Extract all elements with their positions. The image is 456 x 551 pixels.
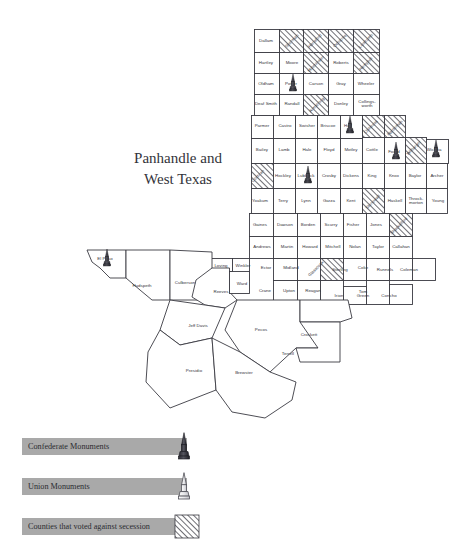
county-label-runnels: Runnels <box>377 267 394 272</box>
county-label-moore: Moore <box>286 60 299 65</box>
county-label-castro: Castro <box>278 123 292 128</box>
county-label-kent: Kent <box>346 198 356 203</box>
county-label-king: King <box>368 173 377 178</box>
county-label-callahan: Callahan <box>392 244 410 249</box>
county-label-bailey: Bailey <box>256 147 269 152</box>
texas-county-map: DallamShermanHansfordOchiltreeLipscombHa… <box>0 0 456 551</box>
county-label-upton: Upton <box>283 288 295 293</box>
county-label-yoakum: Yoakum <box>252 198 268 203</box>
county-label-scurry: Scurry <box>325 222 339 227</box>
county-label-crane: Crane <box>259 288 272 293</box>
county-label-culberson: Culberson <box>175 280 196 285</box>
county-label-taylor: Taylor <box>372 244 384 249</box>
county-label-hudspeth: Hudspeth <box>132 283 152 288</box>
county-label-andrews: Andrews <box>253 244 271 249</box>
county-label-roberts: Roberts <box>333 60 349 65</box>
county-label-ward: Ward <box>237 281 248 286</box>
county-label-concho: Concho <box>381 293 397 298</box>
county-label-hockley: Hockley <box>275 173 292 178</box>
county-label-throckmorton: Throck-morton <box>408 196 424 206</box>
map-legend: Confederate MonumentsUnion MonumentsCoun… <box>22 433 199 538</box>
county-label-parmer: Parmer <box>255 123 270 128</box>
county-label-hartley: Hartley <box>259 60 274 65</box>
county-label-howard: Howard <box>302 244 318 249</box>
county-label-garza: Garza <box>323 198 336 203</box>
legend-label: Union Monuments <box>28 482 90 491</box>
county-label-jones: Jones <box>370 222 383 227</box>
county-label-sterling: Sterling <box>332 267 348 272</box>
map-title-line1: Panhandle and <box>134 150 222 166</box>
county-label-carson: Carson <box>309 81 324 86</box>
county-label-gray: Gray <box>336 81 346 86</box>
county-label-wheeler: Wheeler <box>358 81 375 86</box>
county-label-archer: Archer <box>430 173 444 178</box>
county-label-haskell: Haskell <box>388 198 403 203</box>
county-label-knox: Knox <box>389 173 400 178</box>
county-label-jeff-davis: Jeff Davis <box>188 323 208 328</box>
county-label-reeves: Reeves <box>213 289 229 294</box>
county-label-coleman: Coleman <box>400 267 418 272</box>
county-label-motley: Motley <box>344 147 358 152</box>
county-label-dickens: Dickens <box>343 173 360 178</box>
county-label-floyd: Floyd <box>324 147 335 152</box>
county-label-young: Young <box>432 198 445 203</box>
county-label-nolan: Nolan <box>349 244 361 249</box>
county-label-irion: Irion <box>335 293 344 298</box>
county-label-mitchell: Mitchell <box>325 244 340 249</box>
county-label-brewster: Brewster <box>235 370 253 375</box>
map-figure: DallamShermanHansfordOchiltreeLipscombHa… <box>0 0 456 551</box>
county-label-loving: Loving <box>214 263 228 268</box>
legend-item-hatch-swatch: Counties that voted against secession <box>22 515 199 538</box>
county-label-hale: Hale <box>302 147 312 152</box>
county-label-randall: Randall <box>284 101 299 106</box>
county-label-martin: Martin <box>281 244 294 249</box>
county-label-reagan: Reagan <box>305 288 321 293</box>
hatch-swatch-icon <box>175 515 199 538</box>
county-label-dallam: Dallam <box>259 38 273 43</box>
county-crockett <box>300 300 352 322</box>
county-label-crosby: Crosby <box>322 173 337 178</box>
county-label-presidio: Presidio <box>186 368 203 373</box>
county-label-borden: Borden <box>301 222 316 227</box>
county-label-crockett: Crockett <box>301 332 318 337</box>
county-label-donley: Donley <box>334 101 349 106</box>
county-label-terrell: Terrell <box>282 351 294 356</box>
county-label-dawson: Dawson <box>277 222 294 227</box>
county-label-winkler: Winkler <box>236 263 251 268</box>
county-label-lynn: Lynn <box>301 198 311 203</box>
county-label-gaines: Gaines <box>253 222 268 227</box>
county-label-swisher: Swisher <box>299 123 315 128</box>
legend-label: Confederate Monuments <box>28 442 109 451</box>
county-label-midland: Midland <box>283 265 299 270</box>
county-label-deaf-smith: Deaf Smith <box>255 101 278 106</box>
legend-label: Counties that voted against secession <box>28 522 150 531</box>
map-title-line2: West Texas <box>144 171 212 187</box>
county-label-pecos: Pecos <box>255 327 268 332</box>
county-label-fisher: Fisher <box>347 222 360 227</box>
county-label-oldham: Oldham <box>258 81 274 86</box>
county-label-cottle: Cottle <box>366 147 378 152</box>
county-label-baylor: Baylor <box>409 173 422 178</box>
county-label-coke: Coke <box>358 265 369 270</box>
county-label-ector: Ector <box>261 265 272 270</box>
county-label-lamb: Lamb <box>278 147 290 152</box>
county-label-terry: Terry <box>278 198 289 203</box>
county-label-briscoe: Briscoe <box>321 123 336 128</box>
